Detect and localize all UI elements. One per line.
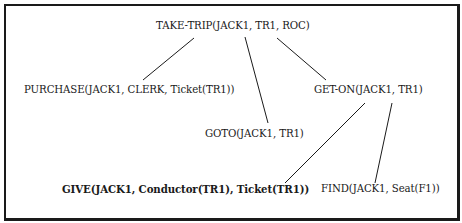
node-get-on: GET-ON(JACK1, TR1): [314, 84, 423, 96]
edge-take-trip-goto: [245, 37, 268, 123]
node-purchase: PURCHASE(JACK1, CLERK, Ticket(TR1)): [24, 84, 234, 96]
node-goto: GOTO(JACK1, TR1): [205, 128, 304, 140]
node-give: GIVE(JACK1, Conductor(TR1), Ticket(TR1)): [62, 183, 309, 195]
edge-get-on-find: [375, 103, 392, 183]
edge-take-trip-get-on: [277, 38, 326, 80]
edge-get-on-give: [285, 103, 365, 183]
node-take-trip: TAKE-TRIP(JACK1, TR1, ROC): [156, 20, 310, 32]
node-find: FIND(JACK1, Seat(F1)): [321, 183, 440, 195]
edge-take-trip-purchase: [143, 38, 194, 80]
